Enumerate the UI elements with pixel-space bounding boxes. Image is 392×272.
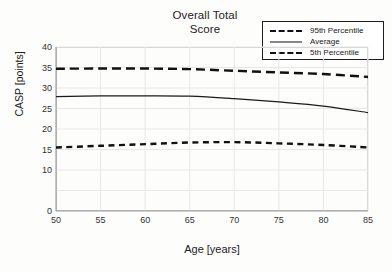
y-tick-label: 20 xyxy=(30,124,52,134)
data-series xyxy=(56,68,368,147)
x-tick-label: 60 xyxy=(131,215,159,225)
series-line-95th-percentile xyxy=(56,68,368,76)
y-axis-tick-labels: 010152025303540 xyxy=(28,0,52,272)
y-tick-label: 35 xyxy=(30,63,52,73)
x-tick-label: 50 xyxy=(42,215,70,225)
x-tick-label: 75 xyxy=(265,215,293,225)
series-line-5th-percentile xyxy=(56,142,368,147)
series-line-average xyxy=(56,96,368,113)
chart-container: Overall Total Score 95th Percentile Aver… xyxy=(0,0,392,272)
y-tick-label: 40 xyxy=(30,42,52,52)
chart-title: Overall Total Score xyxy=(140,8,270,36)
legend-item-95th-percentile: 95th Percentile xyxy=(268,25,379,36)
x-tick-label: 85 xyxy=(354,215,382,225)
x-tick-label: 65 xyxy=(176,215,204,225)
y-tick-label: 10 xyxy=(30,165,52,175)
legend-swatch-solid-icon xyxy=(268,36,304,47)
x-tick-label: 55 xyxy=(87,215,115,225)
x-tick-label: 70 xyxy=(220,215,248,225)
plot-canvas xyxy=(56,47,368,211)
legend-label-average: Average xyxy=(310,37,340,47)
legend-label-95th-percentile: 95th Percentile xyxy=(310,26,363,36)
y-axis-title: CASP [points] xyxy=(13,29,25,139)
legend-item-average: Average xyxy=(268,36,379,47)
y-tick-label: 30 xyxy=(30,83,52,93)
grid-lines xyxy=(56,47,368,211)
x-axis-title: Age [years] xyxy=(56,243,368,255)
legend-swatch-dashed-long-icon xyxy=(268,25,304,36)
x-tick-label: 80 xyxy=(309,215,337,225)
y-tick-label: 15 xyxy=(30,145,52,155)
y-tick-label: 25 xyxy=(30,104,52,114)
